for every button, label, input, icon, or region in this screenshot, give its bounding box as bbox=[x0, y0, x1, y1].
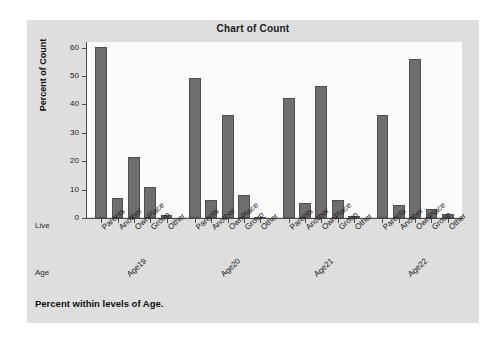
y-tick-label: 50 bbox=[57, 71, 79, 80]
bar bbox=[377, 115, 389, 218]
y-tick-mark bbox=[82, 48, 87, 49]
y-tick-mark bbox=[82, 218, 87, 219]
y-axis-title: Percent of Count bbox=[38, 15, 48, 135]
bar bbox=[189, 78, 201, 218]
chart-footnote: Percent within levels of Age. bbox=[35, 298, 163, 309]
row-label-age: Age bbox=[35, 268, 49, 277]
y-tick-label: 40 bbox=[57, 99, 79, 108]
bar bbox=[95, 47, 107, 218]
group-tick-label: Age19 bbox=[125, 257, 148, 279]
y-tick-label: 30 bbox=[57, 128, 79, 137]
group-tick-label: Age20 bbox=[219, 257, 242, 279]
bar bbox=[409, 59, 421, 218]
y-tick-mark bbox=[82, 104, 87, 105]
y-tick-mark bbox=[82, 161, 87, 162]
y-tick-mark bbox=[82, 133, 87, 134]
y-tick-mark bbox=[82, 76, 87, 77]
chart-window: Chart of Count Percent of Count 01020304… bbox=[0, 0, 503, 342]
bar bbox=[315, 86, 327, 218]
y-axis-line bbox=[86, 42, 87, 219]
chart-panel: Chart of Count Percent of Count 01020304… bbox=[27, 20, 479, 323]
y-tick-label: 60 bbox=[57, 43, 79, 52]
row-label-live: Live bbox=[35, 221, 50, 230]
y-tick-label: 0 bbox=[57, 213, 79, 222]
plot-area bbox=[87, 42, 462, 217]
bar bbox=[222, 115, 234, 218]
group-tick-label: Age21 bbox=[312, 257, 335, 279]
group-tick-label: Age22 bbox=[406, 257, 429, 279]
y-tick-label: 10 bbox=[57, 185, 79, 194]
chart-title: Chart of Count bbox=[27, 23, 479, 34]
y-tick-label: 20 bbox=[57, 156, 79, 165]
bar bbox=[283, 98, 295, 218]
y-tick-mark bbox=[82, 190, 87, 191]
